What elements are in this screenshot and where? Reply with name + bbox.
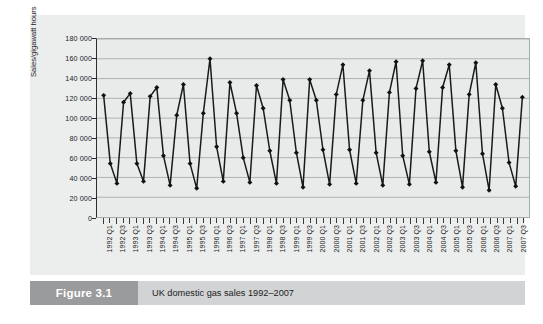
x-axis-tick-label: 2001 Q1: [346, 225, 353, 253]
x-axis-tick-mark: [230, 218, 231, 223]
data-point-marker: [274, 181, 279, 186]
data-point-marker: [433, 180, 438, 185]
data-point-marker: [114, 181, 119, 186]
x-axis-tick-mark: [363, 218, 364, 223]
data-point-marker: [473, 60, 478, 65]
data-point-marker: [320, 147, 325, 152]
x-axis-tick-mark: [423, 218, 424, 224]
data-point-marker: [447, 62, 452, 67]
x-axis-tick-mark: [463, 218, 464, 224]
data-point-marker: [327, 182, 332, 187]
x-axis-tick-mark: [250, 218, 251, 224]
data-point-marker: [227, 80, 232, 85]
x-axis-tick-mark: [343, 218, 344, 224]
x-axis-tick-label: 2004 Q3: [440, 225, 447, 253]
data-point-marker: [493, 82, 498, 87]
x-axis-tick-label: 1993 Q1: [132, 225, 139, 253]
x-axis-tick-label: 2001 Q3: [359, 225, 366, 253]
data-point-marker: [101, 93, 106, 98]
x-axis-tick-label: 1995 Q1: [186, 225, 193, 253]
x-axis-tick-mark: [376, 218, 377, 223]
data-point-marker: [480, 151, 485, 156]
x-axis-tick-label: 1998 Q3: [279, 225, 286, 253]
data-point-marker: [354, 181, 359, 186]
x-axis-tick-mark: [256, 218, 257, 223]
data-point-marker: [201, 111, 206, 116]
x-axis-tick-label: 1997 Q3: [253, 225, 260, 253]
x-axis-tick-mark: [330, 218, 331, 224]
data-point-marker: [307, 77, 312, 82]
x-axis-tick-label: 2000 Q1: [319, 225, 326, 253]
data-point-marker: [301, 185, 306, 190]
data-point-marker: [507, 160, 512, 165]
x-axis-tick-mark: [490, 218, 491, 224]
data-point-marker: [467, 92, 472, 97]
x-axis-tick-mark: [510, 218, 511, 223]
y-axis-title: Sales/gigawatt hours: [29, 0, 38, 77]
x-axis-tick-mark: [350, 218, 351, 223]
data-point-marker: [194, 186, 199, 191]
data-point-marker: [453, 148, 458, 153]
chart-svg: [97, 39, 529, 217]
data-point-marker: [340, 62, 345, 67]
data-point-marker: [281, 77, 286, 82]
x-axis-tick-mark: [189, 218, 190, 223]
data-point-marker: [500, 106, 505, 111]
x-axis-tick-mark: [310, 218, 311, 223]
x-axis-tick-mark: [143, 218, 144, 224]
x-axis-tick-mark: [283, 218, 284, 223]
x-axis-tick-mark: [443, 218, 444, 223]
x-axis-tick-label: 1996 Q1: [213, 225, 220, 253]
x-axis-tick-mark: [103, 218, 104, 224]
x-axis-tick-mark: [276, 218, 277, 224]
data-point-marker: [261, 106, 266, 111]
x-axis-tick-label: 2004 Q1: [426, 225, 433, 253]
x-axis-tick-mark: [383, 218, 384, 224]
x-axis-tick-label: 1996 Q3: [226, 225, 233, 253]
x-axis-tick-label: 1992 Q1: [106, 225, 113, 253]
x-axis-tick-mark: [430, 218, 431, 223]
x-axis-tick-mark: [116, 218, 117, 224]
x-axis-tick-labels: 1992 Q11992 Q31993 Q11993 Q31994 Q11994 …: [96, 225, 530, 277]
x-axis-tick-mark: [450, 218, 451, 224]
data-point-marker: [334, 92, 339, 97]
x-axis-tick-mark: [109, 218, 110, 223]
data-point-marker: [380, 183, 385, 188]
x-axis-tick-mark: [396, 218, 397, 224]
data-point-marker: [174, 113, 179, 118]
x-axis-tick-mark: [483, 218, 484, 223]
data-point-marker: [294, 150, 299, 155]
data-point-marker: [414, 86, 419, 91]
x-axis-tick-mark: [416, 218, 417, 223]
x-axis-tick-mark: [270, 218, 271, 223]
x-axis-tick-mark: [149, 218, 150, 223]
data-point-marker: [188, 161, 193, 166]
x-axis-tick-mark: [410, 218, 411, 224]
x-axis-tick-mark: [183, 218, 184, 224]
x-axis-tick-label: 2006 Q1: [480, 225, 487, 253]
data-point-marker: [367, 68, 372, 73]
figure-number: Figure 3.1: [30, 281, 138, 305]
y-axis-tick-label: 120 000: [65, 94, 92, 103]
x-axis-tick-mark: [316, 218, 317, 224]
data-point-marker: [374, 150, 379, 155]
x-axis-tick-label: 1999 Q1: [293, 225, 300, 253]
x-axis-tick-label: 1995 Q3: [199, 225, 206, 253]
data-point-marker: [214, 144, 219, 149]
x-axis-tick-mark: [497, 218, 498, 223]
x-axis-tick-label: 1998 Q1: [266, 225, 273, 253]
x-axis-tick-mark: [336, 218, 337, 223]
x-axis-tick-mark: [156, 218, 157, 224]
data-point-marker: [427, 149, 432, 154]
x-axis-tick-mark: [223, 218, 224, 224]
data-point-marker: [247, 180, 252, 185]
x-axis-tick-label: 1997 Q1: [239, 225, 246, 253]
data-point-marker: [520, 95, 525, 100]
data-point-marker: [460, 185, 465, 190]
x-axis-tick-label: 2002 Q3: [386, 225, 393, 253]
x-axis-tick-label: 2007 Q3: [520, 225, 527, 253]
y-axis-tick-label: 160 000: [65, 54, 92, 63]
x-axis-tick-mark: [196, 218, 197, 224]
data-point-marker: [394, 59, 399, 64]
x-axis-tick-mark: [176, 218, 177, 223]
